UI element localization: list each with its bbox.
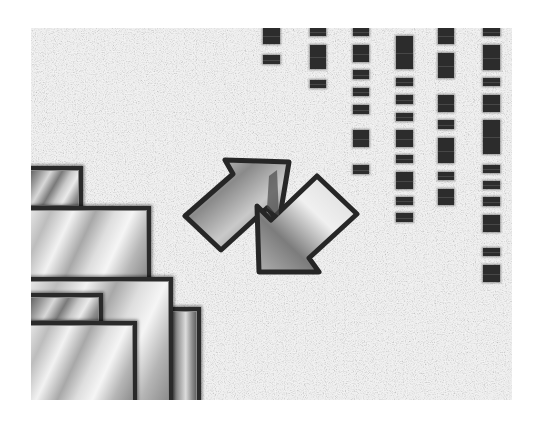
dash-bar bbox=[396, 130, 413, 147]
dash-bar bbox=[396, 172, 413, 189]
dash-bar bbox=[353, 28, 369, 36]
arrow-down-left-icon bbox=[257, 170, 357, 272]
dash-bar bbox=[483, 215, 500, 232]
dash-bar bbox=[353, 130, 369, 147]
dash-bar bbox=[483, 181, 500, 189]
metal-block-front bbox=[31, 321, 137, 400]
dash-bar bbox=[310, 80, 326, 88]
dash-bar bbox=[483, 28, 500, 36]
dash-bar bbox=[438, 120, 454, 129]
metal-block-wide bbox=[31, 206, 151, 282]
dash-bar bbox=[483, 95, 500, 112]
interlocking-arrows bbox=[181, 154, 361, 278]
dash-bar bbox=[396, 155, 413, 163]
dash-bar bbox=[438, 95, 454, 112]
dash-bar bbox=[438, 53, 454, 78]
dash-bar bbox=[353, 45, 369, 62]
dash-bar bbox=[438, 172, 454, 180]
dash-bar bbox=[396, 36, 413, 69]
dash-bar bbox=[438, 28, 454, 44]
dash-bar bbox=[263, 28, 280, 44]
dash-bar bbox=[396, 113, 413, 121]
dash-bar bbox=[310, 45, 326, 69]
dash-bar bbox=[310, 28, 326, 36]
dash-bar bbox=[353, 70, 369, 79]
dash-bar bbox=[483, 120, 500, 154]
dash-bar bbox=[396, 78, 413, 86]
dash-bar bbox=[483, 78, 500, 86]
dash-bar bbox=[263, 55, 280, 64]
dash-bar bbox=[353, 105, 369, 114]
dash-bar bbox=[483, 197, 500, 206]
dash-bar bbox=[438, 189, 454, 205]
dash-bar bbox=[483, 165, 500, 173]
dash-bar bbox=[353, 88, 369, 96]
dash-bar bbox=[438, 138, 454, 163]
dash-bar bbox=[483, 45, 500, 70]
metal-block-top-small bbox=[31, 166, 83, 210]
dash-bar bbox=[483, 248, 500, 256]
dash-bar bbox=[396, 197, 413, 205]
dash-bar bbox=[483, 265, 500, 282]
artwork-canvas bbox=[31, 28, 512, 400]
dash-bar bbox=[396, 213, 413, 222]
dash-bar bbox=[396, 95, 413, 104]
